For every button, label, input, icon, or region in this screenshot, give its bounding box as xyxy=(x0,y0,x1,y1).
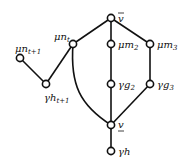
edge-vbar-munt xyxy=(73,18,111,44)
lattice-diagram: v μnt μm2 μm3 μnt+1 γht+1 γg2 γg3 xyxy=(0,0,183,164)
label-vbar: v xyxy=(118,13,124,24)
edge-ght1-munt1 xyxy=(20,58,46,84)
node-mu-m3 xyxy=(146,40,153,47)
node-mu-m2 xyxy=(107,40,114,47)
node-gamma-g3 xyxy=(146,80,153,87)
node-mu-nt xyxy=(69,40,76,47)
label-vunder: v xyxy=(118,119,124,130)
label-gamma-g3: γg3 xyxy=(157,79,174,92)
edge-munt-ght1 xyxy=(46,44,73,84)
label-gamma-g2: γg2 xyxy=(118,79,135,92)
label-mu-m2: μm2 xyxy=(118,39,139,52)
node-gamma-g2 xyxy=(107,80,114,87)
label-gamma-ht1: γht+1 xyxy=(44,92,70,105)
label-gamma-h: γh xyxy=(118,146,130,157)
node-vunder xyxy=(107,121,114,128)
node-mu-nt1 xyxy=(16,54,23,61)
label-mu-nt: μnt xyxy=(54,31,70,44)
node-gamma-ht1 xyxy=(42,80,49,87)
node-gamma-h xyxy=(107,147,114,154)
label-mu-m3: μm3 xyxy=(157,39,178,52)
edge-munt-vunder-curve xyxy=(72,44,111,125)
node-vbar xyxy=(107,14,114,21)
